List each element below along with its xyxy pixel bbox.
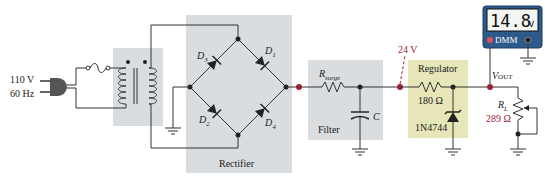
wiper-arrow-icon: [524, 105, 529, 111]
load-wiper: [518, 108, 537, 134]
power-supply-schematic: 110 V 60 Hz D3 D1 D2 D4 Rectifier: [0, 0, 545, 177]
load-label: RL: [497, 99, 508, 113]
dmm-label: DMM: [495, 35, 518, 45]
source-voltage-label: 110 V: [10, 74, 35, 85]
ac-plug-icon: [40, 78, 67, 96]
zener-part-label: 1N4744: [415, 122, 447, 133]
output-testpoint[interactable]: [487, 84, 493, 90]
dmm-reading: 14.8: [490, 11, 531, 31]
ground-icon: [445, 149, 461, 155]
load-resistor-icon: [513, 98, 523, 120]
ground-icon: [520, 58, 536, 64]
load-node: [516, 132, 521, 137]
regulator-label: Regulator: [418, 63, 458, 74]
filter-label: Filter: [318, 124, 340, 135]
load-value-label: 289 Ω: [486, 113, 511, 124]
bridge-node-top: [236, 37, 241, 42]
testpoint-leader: [400, 56, 405, 84]
rectifier-label: Rectifier: [219, 158, 255, 169]
vout-label: VOUT: [492, 70, 513, 81]
dmm-unit: v: [529, 18, 534, 29]
capacitor-label: C: [373, 111, 380, 122]
primary-wire-top: [67, 68, 86, 85]
ground-icon: [510, 149, 526, 155]
ground-icon: [352, 149, 368, 155]
ground-icon: [165, 128, 181, 134]
testpoint-voltage-label: 24 V: [398, 44, 418, 55]
source-frequency-label: 60 Hz: [10, 88, 35, 99]
regulator-resistor-value: 180 Ω: [418, 95, 443, 106]
rectifier-output-testpoint[interactable]: [296, 84, 302, 90]
bridge-node-bottom: [236, 133, 241, 138]
dmm-black-jack-icon: [525, 37, 531, 43]
dmm-meter[interactable]: 14.8 v DMM: [483, 6, 542, 48]
fuse-icon: [86, 64, 110, 73]
dmm-red-jack-icon: [487, 37, 493, 43]
